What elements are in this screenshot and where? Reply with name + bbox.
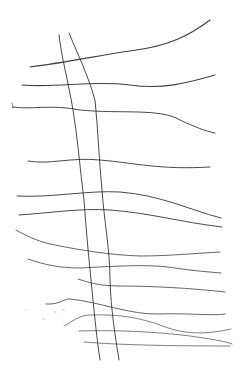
hand-drawn-grid-sketch: [0, 0, 247, 373]
paper-background: [0, 0, 247, 373]
